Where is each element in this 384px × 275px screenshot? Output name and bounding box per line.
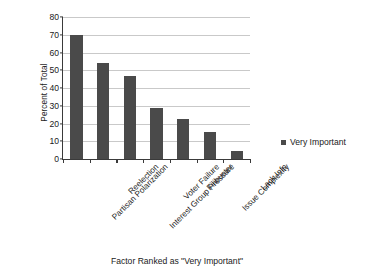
- x-axis-category-labels: Partisan PolarizationReelectionInterest …: [62, 163, 250, 243]
- y-tick-label: 70: [49, 30, 59, 39]
- bar: [150, 108, 162, 159]
- bar: [124, 76, 136, 159]
- bar-slot: [63, 17, 90, 159]
- y-tick-label: 60: [49, 48, 59, 57]
- bar-slot: [90, 17, 117, 159]
- bar-slot: [197, 17, 224, 159]
- y-tick-label: 50: [49, 66, 59, 75]
- bar-slot: [116, 17, 143, 159]
- bar: [97, 63, 109, 159]
- bar: [204, 132, 216, 160]
- x-tick-mark: [90, 159, 91, 163]
- x-tick-mark: [63, 159, 64, 163]
- x-tick-mark: [197, 159, 198, 163]
- bar: [177, 119, 189, 159]
- y-tick-label: 10: [49, 137, 59, 146]
- bar: [70, 35, 82, 159]
- chart-legend: Very Important: [281, 138, 346, 147]
- plot-area: 01020304050607080: [62, 17, 250, 160]
- y-tick-label: 80: [49, 13, 59, 22]
- y-tick-label: 40: [49, 84, 59, 93]
- x-tick-mark: [223, 159, 224, 163]
- bar-slot: [170, 17, 197, 159]
- x-tick-mark: [116, 159, 117, 163]
- bar-chart: Percent of Total 01020304050607080 Parti…: [0, 0, 384, 275]
- bar-slot: [143, 17, 170, 159]
- bar-series-very-important: [63, 17, 250, 159]
- x-tick-mark: [170, 159, 171, 163]
- legend-swatch-icon: [281, 140, 286, 145]
- y-tick-label: 30: [49, 101, 59, 110]
- y-tick-label: 0: [54, 155, 59, 164]
- x-category-label: Partisan Polarization: [111, 163, 170, 222]
- bar-slot: [223, 17, 250, 159]
- x-tick-mark: [250, 159, 251, 163]
- legend-item-label: Very Important: [290, 138, 346, 147]
- x-tick-mark: [143, 159, 144, 163]
- x-category-label: Lack Info: [260, 163, 289, 192]
- y-axis-title: Percent of Total: [40, 33, 49, 153]
- x-axis-title: Factor Ranked as "Very Important": [0, 256, 354, 266]
- bar: [231, 151, 243, 159]
- y-tick-label: 20: [49, 119, 59, 128]
